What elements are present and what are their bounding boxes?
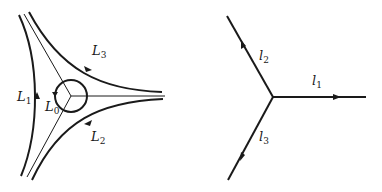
arrow-l2	[84, 120, 92, 126]
arrow-l1-right	[333, 94, 341, 100]
label-right-l2: l2	[259, 48, 269, 65]
label-right-l3: l3	[259, 129, 269, 146]
label-l2: L2	[90, 129, 105, 146]
label-right-l1: l1	[312, 73, 322, 90]
right-diagram	[227, 16, 366, 180]
arrow-l0	[52, 92, 58, 97]
label-l0: L0	[44, 99, 60, 116]
diagram-canvas: L1 L0 L2 L3 l1 l2 l3	[0, 0, 382, 192]
label-l1: L1	[16, 89, 31, 106]
arrow-l3	[84, 66, 92, 72]
label-l3: L3	[91, 43, 107, 60]
arrow-l3-right	[240, 152, 245, 161]
left-diagram	[19, 12, 165, 180]
